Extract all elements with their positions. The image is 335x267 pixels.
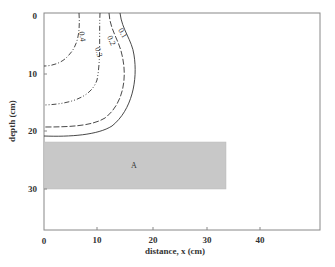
x-tick-40: 40 [256, 235, 266, 245]
y-tick-30: 30 [28, 184, 38, 194]
y-axis: 0 10 20 30 depth (cm) [7, 11, 47, 194]
contour-label-0-1: 0.1 [116, 27, 129, 40]
region-a-label: A [131, 161, 137, 170]
x-tick-30: 30 [203, 235, 213, 245]
x-axis: 0 10 20 30 40 distance, x (cm) [42, 227, 265, 256]
contour-label-0-4: 0.4 [77, 31, 88, 42]
y-axis-label: depth (cm) [7, 100, 17, 142]
contour-chart: A 0.4 0.3 0.2 0.1 0 10 20 30 depth (cm) … [0, 0, 335, 267]
contour-label-0-3: 0.3 [93, 46, 104, 58]
y-tick-10: 10 [28, 69, 38, 79]
contour-0-4 [44, 13, 79, 66]
y-tick-20: 20 [28, 126, 38, 136]
x-tick-10: 10 [93, 235, 103, 245]
x-tick-20: 20 [149, 235, 159, 245]
x-tick-0: 0 [42, 236, 47, 246]
y-tick-0: 0 [33, 11, 38, 21]
contour-0-3 [44, 13, 100, 105]
x-axis-label: distance, x (cm) [145, 246, 205, 256]
plot-frame [44, 13, 320, 230]
